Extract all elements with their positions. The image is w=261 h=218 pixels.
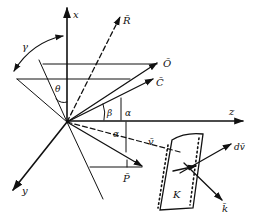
k-vector xyxy=(184,163,222,200)
cone-side-lower xyxy=(67,122,103,199)
dv-vector-label: dv̄ xyxy=(234,142,245,152)
x-axis-label: x xyxy=(73,9,79,20)
dv-vector xyxy=(180,144,231,173)
r-vector-label: R̄ xyxy=(122,15,131,26)
r-vector xyxy=(67,17,120,122)
k-vector-label: k̄ xyxy=(222,203,228,214)
o-vector-label: Ō xyxy=(163,58,171,69)
z-axis-label: z xyxy=(228,106,235,117)
alpha-upper-label: α xyxy=(125,108,131,118)
theta-label: θ xyxy=(55,84,61,94)
alpha-lower-label: α xyxy=(113,129,119,139)
gamma-label: γ xyxy=(22,41,28,52)
v-vector xyxy=(67,122,180,152)
k-element-label: K xyxy=(172,189,181,200)
cone-side-left xyxy=(39,60,67,122)
y-axis-label: y xyxy=(21,185,28,196)
k-plate-edge-dots-left xyxy=(158,145,168,208)
c-vector-label: C̄ xyxy=(156,77,164,88)
p-vector-label: P̄ xyxy=(122,173,130,184)
vector-diagram: x z y R̄ Ō C̄ v̄ P̄ γ θ β α α K xyxy=(0,0,261,218)
beta-arc xyxy=(103,104,105,120)
beta-label: β xyxy=(106,108,112,118)
lower-vector xyxy=(67,122,142,166)
y-axis xyxy=(13,122,67,190)
v-vector-label: v̄ xyxy=(148,136,154,147)
